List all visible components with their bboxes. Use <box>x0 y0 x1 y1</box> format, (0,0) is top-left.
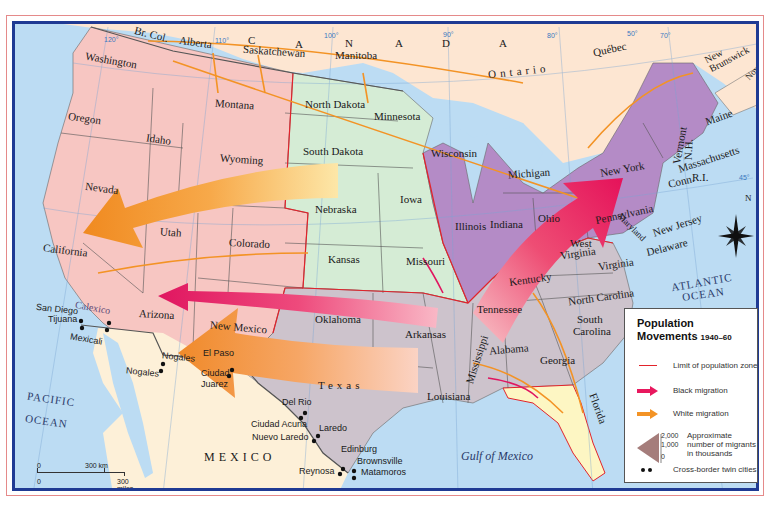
label-wisconsin: Wisconsin <box>431 148 477 159</box>
label-kansas: Kansas <box>328 254 360 265</box>
compass-north-label: N <box>745 194 752 203</box>
city-edinburg: Edinburg <box>341 445 377 454</box>
pink-arrow-icon <box>637 386 659 396</box>
city-laredo: Laredo <box>319 424 347 433</box>
compass-rose <box>718 214 754 258</box>
city-del-rio: Del Rio <box>282 398 312 407</box>
label-south-dakota: South Dakota <box>303 146 363 157</box>
grid-70: 70° <box>660 32 671 39</box>
label-south-carolina-2: Carolina <box>573 326 611 337</box>
label-colorado: Colorado <box>229 237 270 250</box>
grid-110: 110° <box>215 37 229 44</box>
canada-letter-c: C <box>248 35 255 46</box>
label-arizona: Arizona <box>139 308 175 321</box>
label-missouri: Missouri <box>406 256 445 267</box>
city-el-paso: El Paso <box>203 349 234 358</box>
canada-letter-a1: A <box>295 39 303 50</box>
orange-arrow-icon <box>637 409 659 419</box>
scale-bar: 0 300 km 0 300 miles <box>25 454 145 488</box>
canada-letter-n: N <box>345 38 353 49</box>
grid-50: 50° <box>627 30 638 37</box>
label-georgia: Georgia <box>540 355 575 366</box>
scale-miles-label: 300 miles <box>117 478 145 491</box>
grid-90: 90° <box>443 31 454 38</box>
grid-80: 80° <box>547 32 558 39</box>
grid-100: 100° <box>324 32 338 39</box>
legend-title: Population Movements 1940–60 <box>637 317 732 344</box>
red-line-icon <box>639 365 657 366</box>
label-mexico: MEXICO <box>204 451 275 463</box>
label-illinois: Illinois <box>455 221 486 232</box>
legend-years: 1940–60 <box>701 333 732 342</box>
canada-letter-a3: A <box>499 38 507 49</box>
canada-letter-d: D <box>442 38 450 49</box>
scale-zero-mi: 0 <box>37 478 41 485</box>
label-texas: Texas <box>318 380 364 391</box>
city-ciudad: Ciudad <box>201 369 230 378</box>
grid-120: 120° <box>104 36 118 43</box>
label-manitoba: Manitoba <box>335 50 377 61</box>
city-reynosa: Reynosa <box>299 467 335 476</box>
label-rhode-island: R.I. <box>692 172 709 183</box>
label-tennessee: Tennessee <box>477 304 522 315</box>
label-indiana: Indiana <box>490 219 523 230</box>
label-new-hampshire: N.H. <box>683 139 695 161</box>
city-ciudad-acuna: Ciudad Acuna <box>251 420 307 429</box>
label-ohio: Ohio <box>538 213 560 224</box>
label-arkansas: Arkansas <box>405 329 446 340</box>
city-brownsville: Brownsville <box>357 457 403 466</box>
label-iowa: Iowa <box>400 194 422 205</box>
width-scale-ticks: 2,000 1,000 0 <box>661 431 679 461</box>
label-louisiana: Louisiana <box>427 391 470 402</box>
city-nuevo-laredo: Nuevo Laredo <box>252 433 309 442</box>
label-minnesota: Minnesota <box>374 111 420 122</box>
legend-title-line1: Population <box>637 317 694 329</box>
legend-title-line2: Movements <box>637 330 698 342</box>
label-gulf-of-mexico: Gulf of Mexico <box>461 450 533 462</box>
label-oklahoma: Oklahoma <box>315 314 361 325</box>
label-utah: Utah <box>160 226 182 238</box>
city-matamoros: Matamoros <box>361 468 406 477</box>
label-north-dakota: North Dakota <box>305 99 365 110</box>
twin-dots-icon <box>639 467 655 473</box>
legend: Population Movements 1940–60 Limit of po… <box>624 308 758 483</box>
label-south-carolina-1: South <box>577 314 603 325</box>
grid-45: 45° <box>739 174 750 181</box>
canada-letter-a2: A <box>395 38 403 49</box>
city-juarez: Juarez <box>201 380 228 389</box>
label-nebraska: Nebraska <box>315 204 357 215</box>
city-tijuana: Tijuana <box>48 315 77 324</box>
legend-item-width-scale: 2,000 1,000 0 Approximate number of migr… <box>635 431 755 467</box>
